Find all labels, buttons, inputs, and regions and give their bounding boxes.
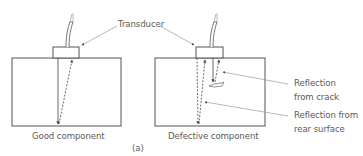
reflection-crack-label-line1: Reflection [294,79,336,88]
crack-shape [209,82,224,87]
reflection-rear-label-line1: Reflection from [294,111,358,120]
good-component-title: Good component [32,132,105,141]
reflection-rear-label-line2: rear surface [294,125,345,134]
leader-lines [82,26,288,116]
good-component [12,14,121,126]
figure-caption: (a) [132,144,144,153]
defective-component-title: Defective component [168,132,259,141]
reflection-crack-label-line2: from crack [294,93,339,102]
transducer-label: Transducer [118,20,164,29]
